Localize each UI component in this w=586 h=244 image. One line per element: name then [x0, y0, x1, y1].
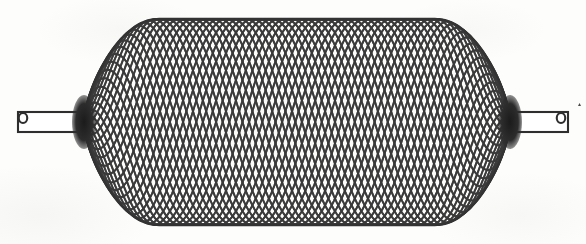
- right-collar-hub: [498, 95, 522, 149]
- braid-filament-group: [84, 19, 510, 225]
- figure-canvas: [0, 0, 586, 244]
- right-hooked-tip: [557, 113, 566, 123]
- scan-artifact-speck: [578, 103, 581, 106]
- left-hooked-tip: [19, 113, 28, 123]
- braided-basket-drawing: [0, 0, 586, 244]
- left-collar-hub: [72, 95, 96, 149]
